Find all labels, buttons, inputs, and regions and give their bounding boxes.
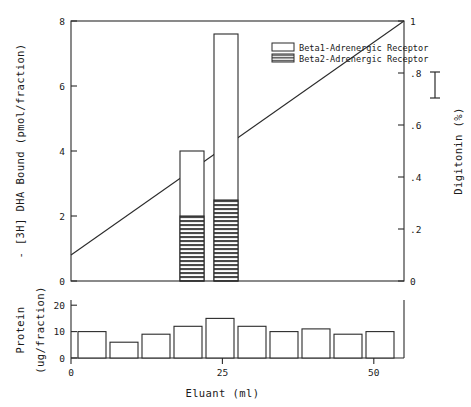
right-tick-label-08: .8 — [410, 68, 422, 79]
legend-swatch-beta1 — [272, 43, 294, 51]
right-tick-label-0: 0 — [410, 276, 416, 287]
right-tick-label-06: .6 — [410, 120, 422, 131]
x-tick-label-25: 25 — [217, 367, 228, 378]
protein-axis-title-line2: (ug/fraction) — [34, 286, 46, 373]
bar-2-beta2-segment — [214, 200, 238, 281]
protein-bar — [78, 332, 106, 358]
left-tick-label-4: 4 — [59, 146, 65, 157]
stacked-bar-1 — [180, 151, 204, 281]
chart-figure: 0 2 4 6 8 0 .2 .4 .6 .8 1 — [0, 0, 471, 407]
x-axis-title: Eluant (ml) — [185, 387, 259, 399]
right-tick-label-04: .4 — [410, 172, 422, 183]
bar-1-beta2-segment — [180, 216, 204, 281]
bottom-tick-label-0: 0 — [59, 353, 65, 364]
protein-bar — [302, 329, 330, 358]
left-tick-label-8: 8 — [59, 16, 65, 27]
protein-axis-title-line1: Protein — [14, 306, 26, 353]
bottom-tick-label-10: 10 — [54, 326, 66, 337]
x-tick-label-0: 0 — [68, 367, 74, 378]
bottom-tick-label-20: 20 — [54, 300, 66, 311]
protein-bar — [238, 326, 266, 358]
right-tick-label-02: .2 — [410, 224, 421, 235]
legend-label-beta2: Beta2-Adrenergic Receptor — [299, 54, 428, 64]
protein-bar — [334, 334, 362, 358]
legend-swatch-beta2 — [272, 54, 294, 62]
protein-bar — [142, 334, 170, 358]
left-tick-label-0: 0 — [59, 276, 65, 287]
left-tick-label-6: 6 — [59, 81, 65, 92]
stacked-bar-2 — [214, 34, 238, 281]
y-axis-title: - [3H] DHA Bound (pmol/fraction) — [14, 43, 26, 258]
legend-label-beta1: Beta1-Adrenergic Receptor — [299, 43, 428, 53]
protein-bar — [366, 332, 394, 358]
right-tick-label-1: 1 — [410, 16, 416, 27]
x-tick-label-50: 50 — [368, 367, 380, 378]
protein-bar — [270, 332, 298, 358]
left-tick-label-2: 2 — [59, 211, 65, 222]
protein-bar — [174, 326, 202, 358]
y2-axis-title: Digitonin (%) — [452, 107, 464, 194]
protein-bar — [206, 318, 234, 358]
protein-bar — [110, 342, 138, 358]
